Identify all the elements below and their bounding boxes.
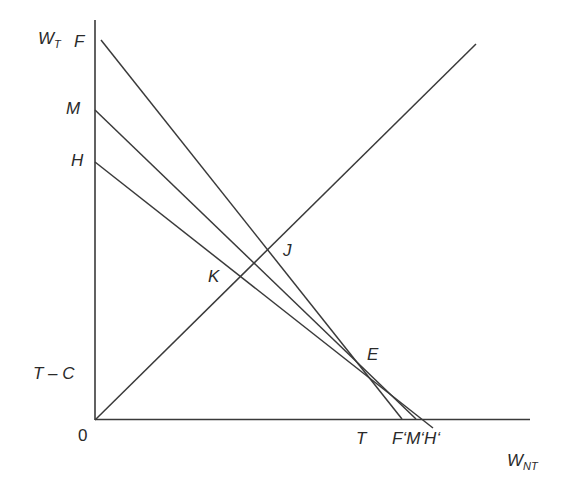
label-h: H bbox=[71, 152, 83, 169]
label-f: F bbox=[74, 33, 84, 50]
diagram-canvas bbox=[0, 0, 572, 478]
y-axis-label-main: W bbox=[38, 29, 54, 48]
x-axis-label-main: W bbox=[507, 451, 523, 470]
label-t: T bbox=[356, 430, 366, 447]
label-m: M bbox=[66, 100, 80, 117]
y-axis-label: WT bbox=[38, 30, 61, 47]
origin-label: 0 bbox=[78, 427, 87, 444]
label-e: E bbox=[367, 346, 378, 363]
label-fmh-prime: F‘M‘H‘ bbox=[392, 430, 440, 447]
x-axis-label-sub: NT bbox=[523, 460, 538, 472]
x-axis-label: WNT bbox=[507, 452, 538, 469]
line-hh bbox=[95, 162, 433, 428]
line-45-degree bbox=[95, 44, 476, 420]
y-axis-label-sub: T bbox=[54, 38, 61, 50]
label-t-minus-c: T – C bbox=[33, 365, 75, 382]
label-j: J bbox=[283, 242, 292, 259]
label-k: K bbox=[208, 268, 219, 285]
